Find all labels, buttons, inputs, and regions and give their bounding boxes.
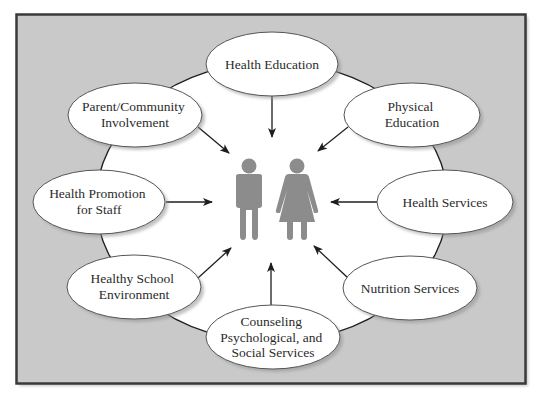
svg-text:Health Services: Health Services xyxy=(402,195,487,210)
node-label: Health Services xyxy=(402,195,487,210)
node-label: Involvement xyxy=(101,115,169,130)
node-label: Counseling xyxy=(241,314,303,329)
svg-text:Health Education: Health Education xyxy=(225,57,319,72)
node-label: Physical xyxy=(387,99,433,114)
coordinated-school-health-diagram: Health Education Physical Education Heal… xyxy=(0,0,542,398)
node-label: Healthy School xyxy=(91,271,175,286)
node-label: Health Education xyxy=(225,57,319,72)
svg-text:Healthy School Environ: Healthy School Environment xyxy=(91,271,178,302)
node-label: Parent/Community xyxy=(82,99,185,114)
node-label: for Staff xyxy=(76,202,122,217)
node-label: Health Promotion xyxy=(49,186,146,201)
node-label: Environment xyxy=(99,287,170,302)
svg-text:Physical Education: Physical Education xyxy=(385,99,440,130)
node-label: Nutrition Services xyxy=(361,281,460,296)
node-label: Education xyxy=(385,115,440,130)
svg-text:Nutrition Services: Nutrition Services xyxy=(361,281,460,296)
node-label: Psychological, and xyxy=(220,330,322,345)
node-label: Social Services xyxy=(232,345,315,360)
